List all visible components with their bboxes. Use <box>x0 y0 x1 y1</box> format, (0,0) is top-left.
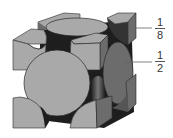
label-face-fraction: 1 2 <box>153 50 167 73</box>
label-corner-numerator: 1 <box>153 17 167 27</box>
label-corner-fraction: 1 8 <box>153 17 167 40</box>
label-face-numerator: 1 <box>153 50 167 60</box>
label-face-denominator: 2 <box>153 63 167 73</box>
label-corner-denominator: 8 <box>153 30 167 40</box>
fcc-unit-cell-diagram <box>0 0 173 138</box>
